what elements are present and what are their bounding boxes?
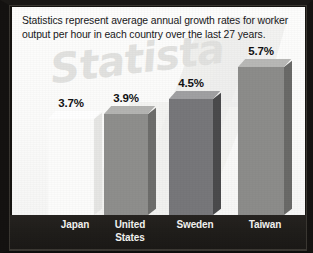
bar-top-face (48, 111, 101, 119)
chart-image: Statista Statistics represent average an… (0, 0, 313, 253)
bar-sweden: 4.5% (169, 99, 213, 215)
bar-side-face (148, 108, 156, 215)
category-axis-band: JapanUnitedStatesSwedenTaiwan (9, 215, 308, 253)
axis-label-sweden: Sweden (169, 219, 221, 232)
bar-front-face (104, 114, 148, 215)
bar-front-face (48, 119, 94, 215)
bar-front-face (238, 67, 284, 215)
chart-panel: Statista Statistics represent average an… (12, 7, 305, 215)
axis-label-taiwan: Taiwan (238, 219, 292, 232)
bar-side-face (213, 93, 221, 215)
bar-value-label: 4.5% (169, 77, 213, 89)
axis-label-line-1: Taiwan (238, 219, 292, 232)
bar-japan: 3.7% (48, 119, 94, 215)
bar-top-face (104, 106, 155, 114)
bar-taiwan: 5.7% (238, 67, 284, 215)
axis-label-line-1: United (104, 219, 156, 232)
axis-label-line-1: Sweden (169, 219, 221, 232)
bar-united-states: 3.9% (104, 114, 148, 215)
axis-label-line-2: States (104, 232, 156, 245)
bar-side-face (94, 113, 102, 215)
axis-label-japan: Japan (48, 219, 102, 232)
bar-value-label: 3.9% (104, 92, 148, 104)
bar-value-label: 3.7% (48, 97, 94, 109)
axis-label-line-1: Japan (48, 219, 102, 232)
bar-top-face (169, 91, 220, 99)
bar-front-face (169, 99, 213, 215)
bar-side-face (284, 61, 292, 215)
axis-label-united-states: UnitedStates (104, 219, 156, 244)
bar-value-label: 5.7% (238, 45, 284, 57)
bar-top-face (238, 59, 291, 67)
chart-caption: Statistics represent average annual grow… (22, 14, 294, 42)
